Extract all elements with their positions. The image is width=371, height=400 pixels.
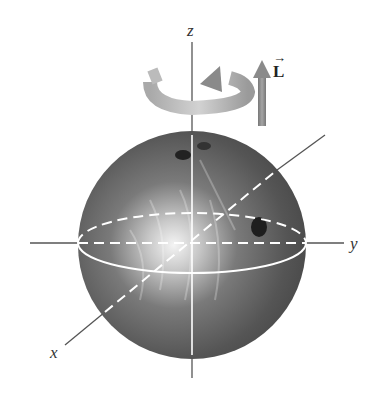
x-axis-label: x <box>49 343 58 362</box>
x-axis-lower <box>65 312 105 345</box>
finger-hole <box>175 150 191 160</box>
vector-arrow-over: → <box>273 50 286 65</box>
x-axis-upper <box>277 135 325 170</box>
angular-momentum-diagram: z y x L → <box>0 0 371 400</box>
angular-momentum-vector-icon <box>253 60 271 126</box>
z-axis-label: z <box>186 21 194 40</box>
rotation-arrow-icon <box>150 66 248 108</box>
finger-hole <box>197 142 211 150</box>
y-axis-label: y <box>348 234 358 253</box>
